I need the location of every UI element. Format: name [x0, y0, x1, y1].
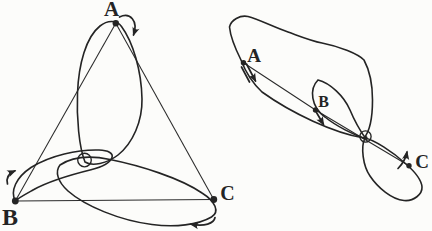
- body-a-dot: [113, 20, 119, 26]
- body-b-label: B: [318, 93, 329, 110]
- triangle-edge-bc: [15, 200, 214, 202]
- body-a-label: A: [104, 0, 120, 21]
- body-c-label: C: [415, 151, 429, 172]
- body-c-dot: [210, 196, 217, 203]
- orbit-of-body-c: [363, 138, 422, 201]
- body-a-dot: [241, 60, 246, 65]
- right-diagram: A B C: [230, 16, 429, 200]
- collinear-line: [244, 63, 410, 166]
- triangle-edge-ac: [116, 23, 214, 199]
- motion-arrow-a-icon: [120, 16, 135, 35]
- figure-canvas: A B C A B C: [0, 0, 432, 231]
- three-body-figure: A B C A B C: [0, 0, 432, 231]
- orbit-of-body-c: [57, 157, 215, 225]
- triangle-edge-ab: [15, 23, 116, 201]
- body-c-label: C: [220, 182, 234, 204]
- body-a-label: A: [247, 45, 261, 66]
- body-b-label: B: [2, 204, 18, 230]
- center-of-mass-dot: [365, 136, 368, 139]
- body-c-dot: [406, 163, 411, 168]
- motion-arrow-b-icon: [7, 171, 15, 184]
- orbit-of-body-a: [77, 22, 142, 165]
- left-diagram: A B C: [2, 0, 235, 230]
- orbit-of-body-a: [230, 16, 373, 138]
